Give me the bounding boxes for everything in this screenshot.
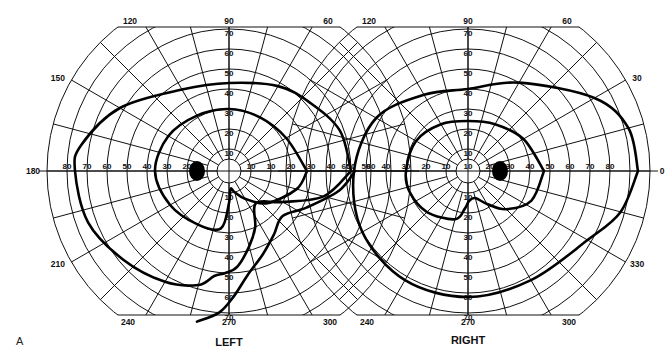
visual-field-chart: 8070605040302010102030405060706050403020… <box>0 0 670 364</box>
tick-label-h: 50 <box>546 162 555 171</box>
tick-label-h: 30 <box>307 162 316 171</box>
meridian-135 <box>100 42 213 155</box>
tick-label-h: 50 <box>362 162 371 171</box>
angle-label-120: 120 <box>362 16 376 26</box>
tick-label-h: 60 <box>103 162 112 171</box>
meridian-255 <box>182 192 223 347</box>
tick-label-h: 40 <box>143 162 152 171</box>
meridian-120 <box>138 13 223 160</box>
tick-label-h: 40 <box>526 162 535 171</box>
meridian-15 <box>250 124 405 165</box>
tick-label-v: 20 <box>464 213 473 222</box>
left-eye-field: 8070605040302010102030405060706050403020… <box>26 0 419 353</box>
angle-label-240: 240 <box>360 317 374 327</box>
tick-label-h: 10 <box>442 162 451 171</box>
meridian-105 <box>421 0 462 150</box>
tick-label-v: 40 <box>225 89 234 98</box>
angle-label-270: 270 <box>222 317 236 327</box>
tick-label-h: 10 <box>464 162 473 171</box>
angle-label-60: 60 <box>562 16 572 26</box>
angle-label-60: 60 <box>323 16 333 26</box>
meridian-285 <box>474 192 515 347</box>
tick-label-h: 80 <box>63 162 72 171</box>
tick-label-h: 40 <box>382 162 391 171</box>
tick-label-v: 10 <box>225 149 234 158</box>
angle-label-240: 240 <box>121 317 135 327</box>
tick-label-v: 30 <box>464 233 473 242</box>
tick-label-h: 50 <box>123 162 132 171</box>
meridian-315 <box>484 187 597 300</box>
tick-label-h: 20 <box>287 162 296 171</box>
tick-label-h: 70 <box>586 162 595 171</box>
meridian-300 <box>235 181 320 328</box>
meridian-210 <box>71 177 218 262</box>
isopter-inner <box>155 109 307 230</box>
meridian-225 <box>100 187 213 300</box>
meridian-255 <box>421 192 462 347</box>
tick-label-h: 60 <box>566 162 575 171</box>
angle-label-180: 180 <box>26 166 40 176</box>
tick-label-v: 50 <box>464 69 473 78</box>
tick-label-v: 30 <box>464 109 473 118</box>
tick-label-v: 20 <box>464 129 473 138</box>
blind-spot <box>189 161 205 181</box>
angle-label-330: 330 <box>630 259 644 269</box>
meridian-30 <box>478 80 625 165</box>
meridian-165 <box>292 124 447 165</box>
angle-label-300: 300 <box>562 317 576 327</box>
isopter-defect-branch <box>197 171 355 322</box>
tick-label-v: 40 <box>225 253 234 262</box>
angle-label-0: 0 <box>660 166 665 176</box>
angle-label-30: 30 <box>632 73 642 83</box>
meridian-45 <box>484 42 597 155</box>
tick-label-h: 20 <box>422 162 431 171</box>
angle-label-90: 90 <box>224 16 234 26</box>
meridian-195 <box>292 177 447 218</box>
tick-label-v: 20 <box>225 129 234 138</box>
meridian-330 <box>478 177 625 262</box>
meridian-240 <box>138 181 223 328</box>
tick-label-v: 50 <box>225 273 234 282</box>
tick-label-v: 60 <box>225 49 234 58</box>
tick-label-v: 70 <box>225 29 234 38</box>
meridian-165 <box>53 124 208 165</box>
meridian-225 <box>339 187 452 300</box>
angle-label-120: 120 <box>123 16 137 26</box>
tick-label-h: 60 <box>342 162 351 171</box>
angle-label-90: 90 <box>463 16 473 26</box>
angle-label-270: 270 <box>461 317 475 327</box>
tick-label-v: 10 <box>464 149 473 158</box>
meridian-105 <box>182 0 223 150</box>
tick-label-v: 60 <box>464 49 473 58</box>
tick-label-v: 70 <box>464 29 473 38</box>
tick-label-h: 80 <box>606 162 615 171</box>
blind-spot <box>492 161 508 181</box>
tick-label-h: 70 <box>83 162 92 171</box>
tick-label-h: 10 <box>267 162 276 171</box>
tick-label-v: 50 <box>464 273 473 282</box>
tick-label-v: 30 <box>225 233 234 242</box>
angle-label-150: 150 <box>51 73 65 83</box>
tick-label-h: 30 <box>163 162 172 171</box>
meridian-75 <box>474 0 515 150</box>
tick-label-h: 10 <box>247 162 256 171</box>
meridian-150 <box>71 80 218 165</box>
angle-label-210: 210 <box>51 259 65 269</box>
meridian-135 <box>339 42 452 155</box>
tick-label-h: 40 <box>327 162 336 171</box>
meridian-75 <box>235 0 276 150</box>
tick-label-v: 50 <box>225 69 234 78</box>
angle-label-300: 300 <box>323 317 337 327</box>
right-eye-field: 6050403020101020304050607080706050403020… <box>278 0 665 353</box>
isopter-outer <box>353 82 638 297</box>
tick-label-v: 40 <box>464 253 473 262</box>
meridian-240 <box>377 181 462 328</box>
